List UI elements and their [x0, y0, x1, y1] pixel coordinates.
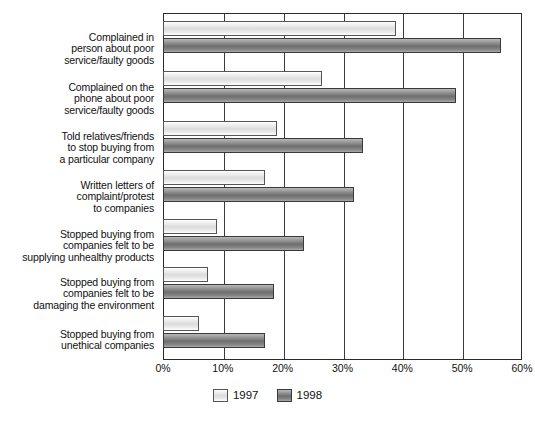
y-axis-label-row-5: Stopped buying fromcompanies felt to bes… — [0, 229, 154, 264]
bar-chart: Complained inperson about poorservice/fa… — [0, 0, 535, 421]
y-axis-label-line: service/faulty goods — [0, 105, 154, 117]
y-axis-label-line: damaging the environment — [0, 300, 154, 312]
legend-label-1997: 1997 — [233, 389, 259, 402]
bar-1998-row-7 — [163, 333, 265, 348]
x-tick-label: 10% — [212, 362, 233, 375]
bar-1997-row-1 — [163, 21, 396, 36]
bar-1997-row-2 — [163, 71, 322, 86]
y-axis-label-row-6: Stopped buying fromcompanies felt to bed… — [0, 277, 154, 312]
x-tick-label: 60% — [511, 362, 532, 375]
x-tick-label: 30% — [332, 362, 353, 375]
bar-1998-row-5 — [163, 236, 304, 251]
y-axis-label-line: supplying unhealthy products — [0, 252, 154, 264]
chart-legend: 19971998 — [0, 389, 535, 402]
bar-1997-row-6 — [163, 267, 208, 282]
legend-item-1998: 1998 — [277, 389, 323, 402]
bar-1997-row-7 — [163, 316, 199, 331]
legend-item-1997: 1997 — [213, 389, 259, 402]
bars-layer — [163, 13, 522, 360]
y-axis-label-line: a particular company — [0, 154, 154, 166]
y-axis-label-line: to companies — [0, 203, 154, 215]
y-axis-label-line: unethical companies — [0, 340, 154, 352]
y-axis-labels: Complained inperson about poorservice/fa… — [0, 13, 159, 360]
y-axis-label-row-4: Written letters ofcomplaint/protestto co… — [0, 180, 154, 215]
legend-swatch-1998 — [277, 389, 292, 402]
y-axis-label-line: service/faulty goods — [0, 55, 154, 67]
x-tick-label: 50% — [452, 362, 473, 375]
bar-1997-row-4 — [163, 170, 265, 185]
bar-1998-row-3 — [163, 138, 363, 153]
bar-1998-row-6 — [163, 284, 274, 299]
legend-label-1998: 1998 — [297, 389, 323, 402]
legend-swatch-1997 — [213, 389, 228, 402]
y-axis-label-row-2: Complained on thephone about poorservice… — [0, 82, 154, 117]
y-axis-label-row-7: Stopped buying fromunethical companies — [0, 329, 154, 352]
x-tick-label: 40% — [392, 362, 413, 375]
bar-1998-row-4 — [163, 187, 354, 202]
y-axis-label-row-1: Complained inperson about poorservice/fa… — [0, 32, 154, 67]
x-tick-label: 0% — [155, 362, 170, 375]
x-tick-label: 20% — [272, 362, 293, 375]
bar-1998-row-2 — [163, 88, 456, 103]
bar-1997-row-3 — [163, 121, 277, 136]
bar-1997-row-5 — [163, 219, 217, 234]
bar-1998-row-1 — [163, 38, 501, 53]
y-axis-label-row-3: Told relatives/friendsto stop buying fro… — [0, 131, 154, 166]
x-axis-tick-labels: 0%10%20%30%40%50%60% — [0, 362, 535, 378]
